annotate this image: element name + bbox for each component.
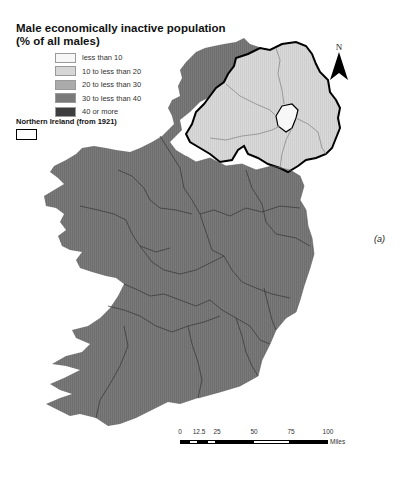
scale-segment [253, 440, 290, 444]
scale-tick: 75 [287, 428, 294, 435]
panel-label: (a) [374, 234, 385, 244]
scale-unit: Miles [330, 438, 345, 445]
scale-segment [290, 440, 328, 444]
scale-tick: 50 [250, 428, 257, 435]
scale-tick: 100 [323, 428, 334, 435]
scale-tick: 12.5 [193, 428, 206, 435]
scale-bar-ticks: 0 12.5 25 50 75 100 [180, 428, 350, 438]
scale-segment [180, 440, 189, 444]
scale-segment [216, 440, 253, 444]
scale-bar-segments: Miles [180, 438, 350, 445]
north-arrow-icon [330, 52, 348, 82]
scale-bar: 0 12.5 25 50 75 100 Miles [180, 428, 350, 445]
scale-segment [198, 440, 207, 444]
scale-segment [207, 440, 216, 444]
scale-tick: 0 [178, 428, 182, 435]
north-arrow: N [329, 42, 349, 86]
scale-tick: 25 [213, 428, 220, 435]
scale-segment [189, 440, 198, 444]
north-arrow-letter: N [329, 42, 349, 52]
